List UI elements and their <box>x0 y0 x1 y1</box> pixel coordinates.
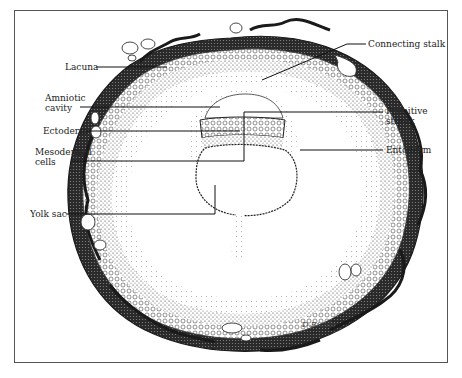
label-amniotic-cavity-line2: cavity <box>45 103 72 113</box>
label-entoderm: Entoderm <box>386 145 431 155</box>
label-mesodermal-cells-line1: Mesodermal <box>35 147 92 157</box>
label-mesodermal-cells-line2: cells <box>35 157 56 167</box>
label-primitive-streak-line2: streak <box>386 116 415 126</box>
label-lacuna: Lacuna <box>65 62 98 72</box>
artist-signature: D.Ricolo <box>302 320 336 329</box>
embryo-illustration <box>0 0 462 378</box>
label-yolk-sac: Yolk sac <box>30 209 67 219</box>
label-ectoderm: Ectoderm <box>43 126 88 136</box>
label-primitive-streak-line1: Primitive <box>386 106 428 116</box>
label-connecting-stalk: Connecting stalk <box>368 39 445 49</box>
label-amniotic-cavity-line1: Amniotic <box>45 93 86 103</box>
